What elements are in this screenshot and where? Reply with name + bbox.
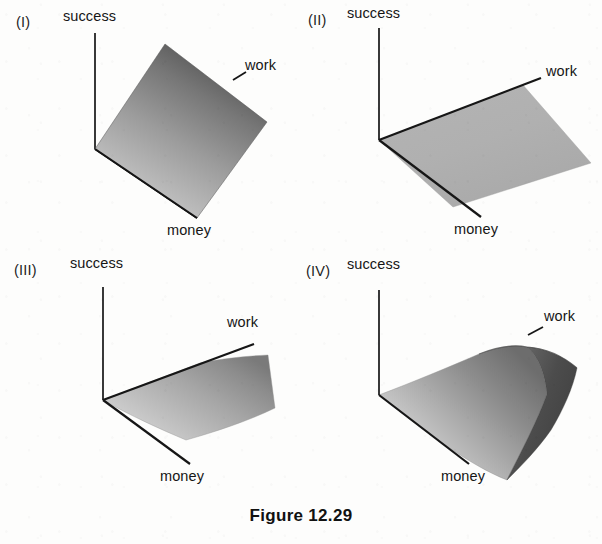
panel-2-roman-label: (II): [308, 12, 327, 28]
panel-2-success-label: success: [347, 5, 400, 21]
figure-page: (I) success work money (II) success: [0, 0, 602, 544]
panel-1-roman-label: (I): [16, 14, 30, 30]
panel-3-plot: [0, 252, 301, 507]
panel-3-work-label: work: [227, 314, 258, 330]
panel-3-roman-label: (III): [14, 262, 37, 278]
panel-4-work-axis-tick: [528, 327, 543, 335]
panel-2-surface: [379, 85, 591, 207]
panel-2: (II) success work money: [301, 0, 602, 255]
panel-1-money-label: money: [167, 222, 211, 238]
panel-1-plot: [0, 0, 301, 255]
panel-4-roman-label: (IV): [306, 263, 330, 279]
panel-2-plot: [301, 0, 602, 255]
panel-1-surface: [95, 44, 267, 218]
panel-2-work-label: work: [546, 63, 577, 79]
panel-3-success-label: success: [70, 255, 123, 271]
panel-3-money-label: money: [160, 468, 204, 484]
panel-1-work-axis-tick: [233, 72, 246, 80]
panel-2-money-label: money: [454, 221, 498, 237]
panel-4-money-label: money: [441, 468, 485, 484]
panel-1-work-label: work: [245, 57, 276, 73]
panel-4-work-label: work: [544, 308, 575, 324]
panel-4: (IV) success work money: [301, 252, 602, 507]
panel-3: (III) success work money: [0, 252, 301, 507]
panel-1-success-label: success: [63, 8, 116, 24]
panel-4-success-label: success: [347, 256, 400, 272]
panel-1: (I) success work money: [0, 0, 301, 255]
figure-caption: Figure 12.29: [0, 506, 602, 526]
